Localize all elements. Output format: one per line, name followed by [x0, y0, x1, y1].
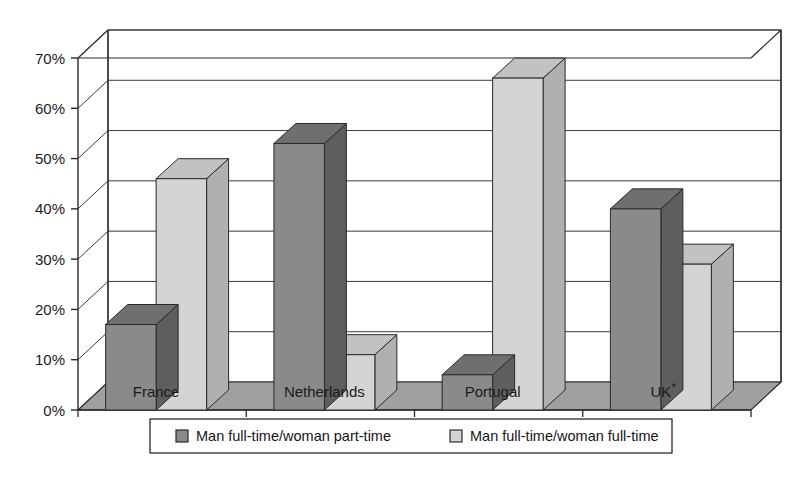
x-axis-ticks [78, 410, 751, 417]
y-tick-label: 70% [35, 50, 65, 67]
x-tick-label: France [133, 383, 180, 400]
chart-canvas: 70%60%50%40%30%20%10%0%FranceNetherlands… [0, 0, 801, 481]
bar-front-face [274, 143, 324, 410]
legend-swatch [176, 430, 188, 442]
y-tick-label: 30% [35, 251, 65, 268]
x-tick-label-superscript: * [671, 381, 676, 393]
bar-side-face [207, 159, 229, 410]
y-tick-label: 0% [43, 402, 65, 419]
gridline-depth-connector [78, 80, 108, 108]
y-tick-label: 60% [35, 100, 65, 117]
legend-label: Man full-time/woman full-time [470, 428, 659, 444]
bar-side-face [543, 58, 565, 410]
gridline-depth-connector [78, 30, 108, 58]
legend-item[interactable]: Man full-time/woman part-time [176, 428, 391, 444]
bar [610, 189, 682, 410]
y-tick-label: 20% [35, 301, 65, 318]
legend-item[interactable]: Man full-time/woman full-time [450, 428, 659, 444]
gridline-depth-connector [78, 131, 108, 159]
gridline-depth-connector [78, 332, 108, 360]
gridline-depth-connector [78, 181, 108, 209]
bar-front-face [610, 209, 660, 410]
bar-side-face [661, 189, 683, 410]
y-tick-label: 50% [35, 150, 65, 167]
y-axis-ticks: 70%60%50%40%30%20%10%0% [35, 50, 78, 419]
bar-side-face [324, 123, 346, 410]
x-tick-label: Portugal [465, 383, 521, 400]
gridline-depth-connector [78, 231, 108, 259]
y-tick-label: 10% [35, 351, 65, 368]
y-tick-label: 40% [35, 200, 65, 217]
gridline-depth-connector [78, 281, 108, 309]
legend: Man full-time/woman part-timeMan full-ti… [150, 419, 672, 453]
bar-chart-3d: 70%60%50%40%30%20%10%0%FranceNetherlands… [0, 0, 801, 481]
x-tick-label: UK [650, 383, 671, 400]
bar-side-face [711, 244, 733, 410]
x-tick-label: Netherlands [284, 383, 365, 400]
legend-swatch [450, 430, 462, 442]
bar [274, 123, 346, 410]
legend-label: Man full-time/woman part-time [196, 428, 391, 444]
